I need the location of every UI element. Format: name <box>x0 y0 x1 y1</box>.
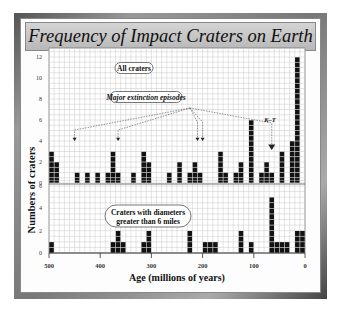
bar-block <box>249 157 254 162</box>
bar-block <box>121 248 126 253</box>
bar-block <box>106 173 111 178</box>
bar-block <box>295 57 300 62</box>
bar-block <box>280 173 285 178</box>
bar-block <box>295 89 300 94</box>
bar-block <box>249 168 254 173</box>
bar-block <box>290 147 295 152</box>
bar-block <box>218 152 223 157</box>
bar-block <box>218 173 223 178</box>
x-tick-label: 300 <box>147 262 157 269</box>
bar-block <box>269 242 274 247</box>
bar-block <box>116 231 121 236</box>
bar-block <box>290 168 295 173</box>
bar-block <box>234 173 239 178</box>
bar-block <box>295 168 300 173</box>
bar-block <box>295 99 300 104</box>
bar-block <box>203 242 208 247</box>
x-tick-label: 100 <box>249 262 259 269</box>
bar-block <box>116 173 121 178</box>
bar-block <box>264 162 269 167</box>
bar-block <box>141 248 146 253</box>
bar-block <box>111 173 116 178</box>
bar-block <box>295 84 300 89</box>
bar-block <box>95 173 100 178</box>
bar-block <box>295 94 300 99</box>
histogram-plots: 02468101202465004003002001000Age (millio… <box>0 0 338 314</box>
bar-block <box>239 242 244 247</box>
y-tick-label: 6 <box>39 117 42 123</box>
bar-block <box>295 126 300 131</box>
kt-label: K–T <box>263 116 277 123</box>
bar-block <box>295 68 300 73</box>
bar-block <box>295 110 300 115</box>
y-tick-label: 12 <box>36 54 42 60</box>
bar-block <box>290 152 295 157</box>
bar-block <box>213 242 218 247</box>
bar-block <box>269 225 274 230</box>
bar-block <box>239 248 244 253</box>
bar-block <box>54 168 59 173</box>
bar-block <box>269 237 274 242</box>
bar-block <box>249 120 254 125</box>
bar-block <box>49 157 54 162</box>
bar-block <box>188 237 193 242</box>
bar-block <box>249 141 254 146</box>
bar-block <box>285 242 290 247</box>
bar-block <box>188 248 193 253</box>
bar-block <box>218 157 223 162</box>
bar-block <box>295 237 300 242</box>
bar-block <box>203 248 208 253</box>
bar-block <box>280 152 285 157</box>
bar-block <box>295 242 300 247</box>
bar-block <box>49 168 54 173</box>
x-tick-label: 0 <box>303 262 306 269</box>
x-tick-label: 200 <box>198 262 208 269</box>
bar-block <box>300 248 305 253</box>
bar-block <box>147 237 152 242</box>
bar-block <box>116 237 121 242</box>
y-tick-label: 6 <box>39 183 42 189</box>
y-tick-label: 10 <box>36 75 42 81</box>
y-axis-label: Numbers of craters <box>26 147 37 234</box>
bar-block <box>269 203 274 208</box>
bar-block <box>141 157 146 162</box>
bar-block <box>280 168 285 173</box>
bar-block <box>295 141 300 146</box>
bar-block <box>223 173 228 178</box>
bar-block <box>75 173 80 178</box>
bar-block <box>295 152 300 157</box>
bar-block <box>116 242 121 247</box>
extinction-label-text: Major extinction episodes <box>105 93 186 102</box>
bar-block <box>295 248 300 253</box>
bar-block <box>239 173 244 178</box>
bar-block <box>269 220 274 225</box>
bar-block <box>188 231 193 236</box>
bar-block <box>239 168 244 173</box>
bar-block <box>249 131 254 136</box>
bar-block <box>249 242 254 247</box>
bar-block <box>280 248 285 253</box>
bar-block <box>218 168 223 173</box>
x-tick-label: 400 <box>95 262 105 269</box>
bar-block <box>295 147 300 152</box>
bar-block <box>111 162 116 167</box>
x-axis-label: Age (millions of years) <box>129 272 225 284</box>
bar-block <box>116 248 121 253</box>
bar-block <box>290 157 295 162</box>
bar-block <box>269 173 274 178</box>
bar-block <box>198 173 203 178</box>
bar-block <box>141 173 146 178</box>
bar-block <box>193 162 198 167</box>
bar-block <box>269 214 274 219</box>
bar-block <box>295 105 300 110</box>
bar-block <box>177 173 182 178</box>
bar-block <box>295 63 300 68</box>
bar-block <box>290 173 295 178</box>
bar-block <box>49 242 54 247</box>
bar-block <box>208 242 213 247</box>
bar-block <box>141 242 146 247</box>
bar-block <box>300 237 305 242</box>
bar-block <box>147 231 152 236</box>
bar-block <box>295 73 300 78</box>
bar-block <box>264 173 269 178</box>
